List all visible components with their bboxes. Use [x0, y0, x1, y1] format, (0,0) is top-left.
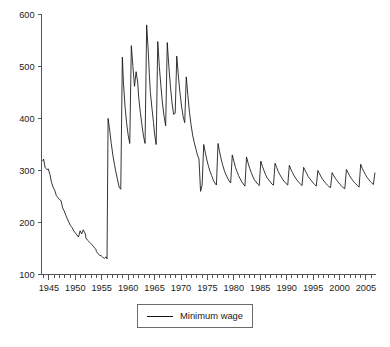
y-axis: 100200300400500600	[19, 10, 41, 280]
line-swatch	[147, 316, 173, 317]
y-tick-label: 200	[19, 218, 34, 228]
x-tick-label: 1990	[276, 283, 296, 293]
y-tick-label: 600	[19, 10, 34, 20]
series-line-minimum-wage	[43, 25, 375, 259]
x-tick-label: 1995	[303, 283, 323, 293]
y-tick-label: 400	[19, 114, 34, 124]
x-tick-label: 2000	[329, 283, 349, 293]
x-tick-label: 2005	[356, 283, 376, 293]
chart-figure: 100200300400500600 194519501955196019651…	[0, 0, 390, 347]
x-tick-label: 1985	[250, 283, 270, 293]
x-tick-label: 1955	[92, 283, 112, 293]
y-tick-label: 500	[19, 62, 34, 72]
legend-label: Minimum wage	[180, 311, 243, 320]
x-tick-label: 1965	[144, 283, 164, 293]
y-tick-label: 300	[19, 166, 34, 176]
chart-plot-area: 100200300400500600 194519501955196019651…	[0, 0, 390, 347]
x-tick-label: 1975	[197, 283, 217, 293]
x-axis: 1945195019551960196519701975198019851990…	[39, 275, 377, 293]
x-tick-label: 1970	[171, 283, 191, 293]
x-tick-label: 1980	[224, 283, 244, 293]
data-series-group	[43, 25, 375, 259]
chart-legend: Minimum wage	[137, 304, 253, 328]
y-tick-label: 100	[19, 270, 34, 280]
x-tick-label: 1945	[39, 283, 59, 293]
x-tick-label: 1960	[118, 283, 138, 293]
x-tick-label: 1950	[65, 283, 85, 293]
